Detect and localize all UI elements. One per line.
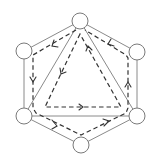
hexagon-edges [24,21,137,145]
edge-upper-right-top [80,21,137,52]
node-upper-left [16,43,32,59]
arrow-icon [103,119,109,126]
arrow-icon [52,120,57,129]
node-top [72,13,88,29]
node-upper-right [129,44,145,60]
hexagon-graph-diagram [0,0,160,157]
node-bottom [73,137,89,153]
arrow-icon [52,40,58,47]
node-lower-right [129,108,145,124]
solid-triangle [24,21,137,116]
arrow-icon [30,77,36,82]
node-lower-left [16,108,32,124]
